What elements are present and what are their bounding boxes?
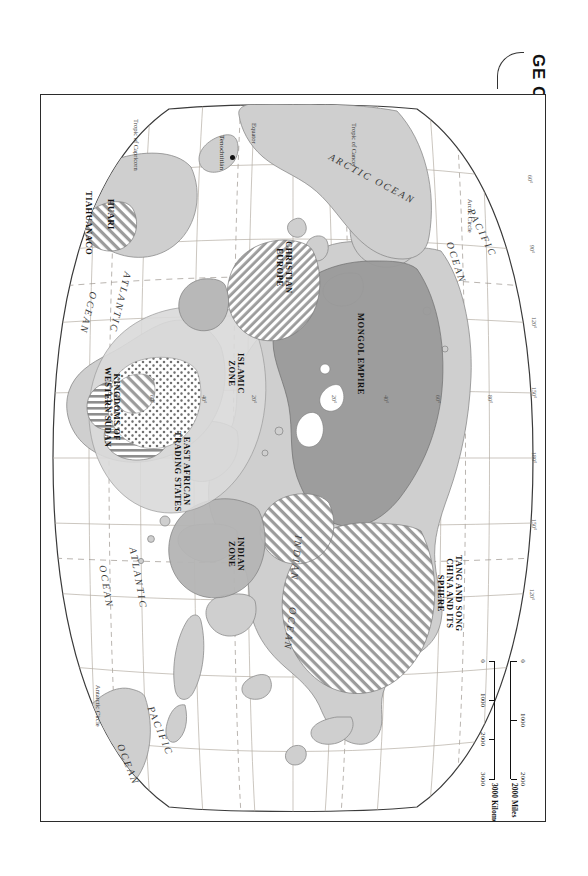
scale-miles-tick-2000: 2000	[519, 772, 527, 786]
title-flourish	[497, 52, 524, 89]
scale-tick	[489, 700, 495, 701]
scale-miles-unit: 2000 Miles	[510, 783, 519, 817]
scale-tick	[489, 661, 495, 662]
scale-tick	[489, 739, 495, 740]
scale-tick	[511, 720, 517, 721]
scale-miles-tick-0: 0	[519, 659, 527, 663]
scale-tick	[511, 779, 517, 780]
rotated-map-canvas: GE OF EXPANDING ZONES OF CULTURE, 500–15…	[34, 48, 554, 828]
map-graticule-and-land	[49, 101, 537, 815]
scale-tick	[489, 779, 495, 780]
scale-miles-tick-1000: 1000	[519, 713, 527, 727]
map-figure: GE OF EXPANDING ZONES OF CULTURE, 500–15…	[0, 0, 588, 876]
scale-km-tick-2000: 2000	[479, 732, 487, 746]
scale-km-unit: 3000 Kilometers	[490, 783, 499, 822]
city-marker-dot	[230, 155, 235, 160]
scale-km-tick-0: 0	[479, 659, 487, 663]
scale-km-tick-1000: 1000	[479, 693, 487, 707]
scale-tick	[511, 661, 517, 662]
scale-bar: 2000 Miles 0 1000 2000 0 1000 2000 3000 …	[475, 657, 529, 807]
scale-km-tick-3000: 3000	[479, 772, 487, 786]
map-plate: 2000 Miles 0 1000 2000 0 1000 2000 3000 …	[40, 94, 546, 822]
scale-km-line	[494, 661, 495, 779]
